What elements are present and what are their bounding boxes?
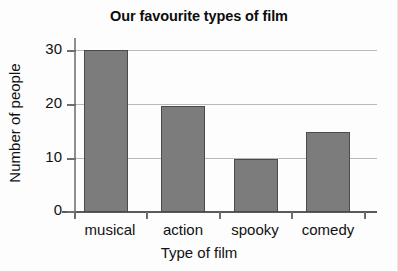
- x-tick-mark-3: [291, 212, 293, 219]
- x-tick-mark-0: [74, 212, 76, 219]
- y-tick-label-30: 30: [22, 40, 62, 57]
- x-tick-mark-4: [364, 212, 366, 219]
- chart-title: Our favourite types of film: [0, 8, 398, 24]
- bar-comedy: [306, 132, 350, 212]
- plot-area: [75, 50, 377, 212]
- bar-chart-figure: Our favourite types of film Number of pe…: [0, 0, 398, 272]
- y-axis-label: Number of people: [6, 63, 23, 182]
- y-tick-label-10: 10: [22, 148, 62, 165]
- bar-spooky: [234, 159, 278, 212]
- y-tick-label-0: 0: [22, 201, 62, 218]
- bar-action: [161, 106, 205, 212]
- y-tick-mark-20: [67, 104, 76, 106]
- y-tick-label-20: 20: [22, 94, 62, 111]
- x-tick-mark-1: [146, 212, 148, 219]
- x-tick-label-spooky: spooky: [215, 221, 295, 238]
- x-axis-label: Type of film: [0, 244, 398, 261]
- bar-musical: [84, 50, 128, 212]
- y-tick-mark-30: [67, 50, 76, 52]
- y-axis-label-container: Number of people: [2, 30, 26, 216]
- x-tick-mark-2: [219, 212, 221, 219]
- x-tick-label-action: action: [143, 221, 223, 238]
- y-tick-mark-10: [67, 158, 76, 160]
- x-tick-label-comedy: comedy: [288, 221, 368, 238]
- x-tick-label-musical: musical: [70, 221, 150, 238]
